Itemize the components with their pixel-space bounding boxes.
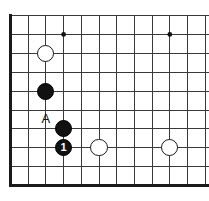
white-stone[interactable]: [90, 139, 107, 156]
go-diagram-figure: 1 A: [0, 0, 209, 201]
stone-move-number: 1: [55, 142, 72, 153]
board-point-label-a: A: [36, 112, 56, 125]
star-point-icon: [61, 32, 66, 37]
go-board[interactable]: 1 A: [0, 0, 209, 201]
star-point-icon: [167, 32, 172, 37]
go-board-grid: [0, 0, 209, 201]
